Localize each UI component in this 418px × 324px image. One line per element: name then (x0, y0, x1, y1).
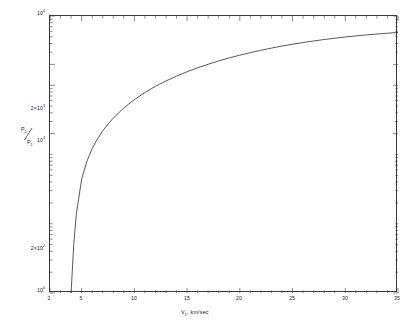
x-tick-label-25: 25 (285, 296, 299, 301)
chart-figure: 104 2×103 103 2×102 100 P2 P1 2 5 10 15 … (0, 0, 418, 324)
plot-area (49, 15, 397, 292)
y-tick-label-10e4: 104 (22, 11, 45, 16)
x-tick-label-5: 5 (74, 296, 88, 301)
x-tick-label-2: 2 (42, 296, 56, 301)
x-axis-title: V1, km/sec (181, 309, 209, 315)
y-tick-label-2e2: 2×102 (18, 246, 45, 251)
x-tick-label-20: 20 (232, 296, 246, 301)
x-tick-label-15: 15 (180, 296, 194, 301)
x-tick-label-35: 35 (390, 296, 404, 301)
y-axis-title: P2 P1 (20, 126, 46, 160)
y-tick-label-2e3: 2×103 (18, 106, 45, 111)
y-tick-label-10e0: 100 (22, 288, 45, 293)
y-axis-title-denominator: P1 (27, 139, 33, 145)
data-curve-layer (50, 16, 398, 293)
x-tick-label-10: 10 (127, 296, 141, 301)
x-tick-label-30: 30 (338, 296, 352, 301)
data-curve (71, 32, 398, 293)
